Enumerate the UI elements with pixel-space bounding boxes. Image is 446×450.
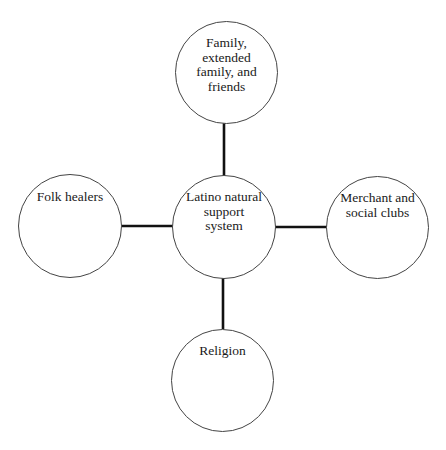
label-line: Religion	[171, 344, 274, 359]
label-line: social clubs	[326, 206, 429, 221]
label-line: extended	[175, 51, 278, 66]
label-line: Merchant and	[326, 191, 429, 206]
label-line: family, and	[175, 65, 278, 80]
node-center-label: Latino natural support system	[172, 190, 276, 234]
label-line: Family,	[175, 36, 278, 51]
label-line: Latino natural	[172, 190, 276, 205]
label-line: Folk healers	[18, 190, 122, 205]
label-line: support	[172, 205, 276, 220]
node-folk-healers-label: Folk healers	[18, 190, 122, 205]
node-family-label: Family, extended family, and friends	[175, 36, 278, 94]
label-line: friends	[175, 80, 278, 95]
node-religion-label: Religion	[171, 344, 274, 359]
node-merchant-label: Merchant and social clubs	[326, 191, 429, 220]
label-line: system	[172, 219, 276, 234]
